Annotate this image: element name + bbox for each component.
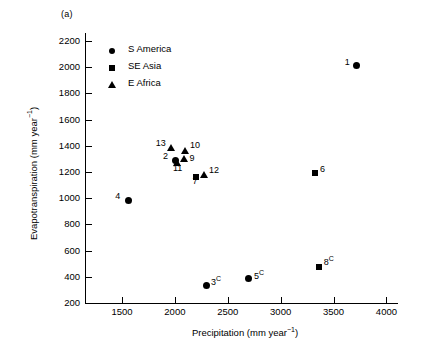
y-tick-label-1000: 1000: [38, 193, 80, 202]
y-tick-label-600: 600: [38, 246, 80, 255]
data-point-label-text: 12: [209, 165, 219, 175]
x-axis-title-main: Precipitation (mm year: [192, 327, 287, 338]
data-point-label-6: 6: [320, 165, 325, 174]
data-point-label-superscript: C: [216, 275, 221, 282]
data-point-label-7: 7: [193, 177, 198, 186]
data-point-1: [353, 62, 360, 69]
y-axis-title-main: Evapotranspiration (mm year: [28, 118, 39, 240]
data-point-label-text: 6: [320, 164, 325, 174]
data-point-label-4: 4: [115, 192, 120, 201]
data-point-4: [125, 197, 132, 204]
panel-label: (a): [61, 9, 73, 19]
y-tick-1400: [86, 146, 92, 147]
y-tick-label-1200: 1200: [38, 167, 80, 176]
y-tick-label-2000: 2000: [38, 62, 80, 71]
data-point-label-text: 11: [173, 163, 182, 173]
y-tick-2200: [86, 41, 92, 42]
filled-triangle-icon-glyph: [108, 81, 116, 88]
data-point-3: [203, 282, 210, 289]
data-point-label-superscript: C: [259, 269, 264, 276]
data-point-label-text: 10: [190, 140, 200, 150]
x-tick-label-2000: 2000: [150, 306, 200, 317]
filled-square-icon-glyph: [109, 65, 115, 71]
y-tick-1600: [86, 120, 92, 121]
x-axis-line: [85, 303, 398, 304]
y-tick-label-200: 200: [38, 298, 80, 307]
data-point-9: [180, 155, 188, 162]
x-axis-title-tail: ): [295, 327, 298, 338]
data-point-12: [200, 171, 208, 178]
data-point-5: [245, 275, 252, 282]
data-point-13: [167, 144, 175, 151]
filled-circle-icon-glyph: [109, 48, 115, 54]
data-point-8: [316, 264, 322, 270]
scatter-plot-figure: (a) 200400600800100012001400160018002000…: [0, 0, 422, 361]
y-tick-200: [86, 303, 92, 304]
legend-label: E Africa: [128, 77, 161, 88]
data-point-label-10: 10: [190, 141, 200, 150]
data-point-label-9: 9: [189, 154, 194, 163]
x-axis-title: Precipitation (mm year−1): [120, 327, 370, 338]
y-tick-400: [86, 277, 92, 278]
x-tick-3000: [281, 297, 282, 303]
x-axis-title-superscript: −1: [287, 326, 295, 333]
data-point-label-text: 7: [193, 176, 198, 186]
y-tick-800: [86, 224, 92, 225]
y-tick-label-1400: 1400: [38, 141, 80, 150]
y-tick-600: [86, 251, 92, 252]
x-tick-2000: [175, 297, 176, 303]
y-axis-title: Evapotranspiration (mm year−1): [28, 64, 39, 284]
y-tick-label-400: 400: [38, 272, 80, 281]
data-point-label-text: 9: [189, 153, 194, 163]
x-tick-label-4000: 4000: [361, 306, 411, 317]
x-tick-label-3500: 3500: [309, 306, 359, 317]
y-tick-label-2200: 2200: [38, 36, 80, 45]
data-point-label-5: 5C: [254, 272, 264, 281]
x-tick-2500: [228, 297, 229, 303]
data-point-label-13: 13: [156, 139, 166, 148]
data-point-10: [181, 147, 189, 154]
y-tick-label-1600: 1600: [38, 115, 80, 124]
y-tick-1800: [86, 93, 92, 94]
data-point-label-12: 12: [209, 166, 219, 175]
data-point-label-superscript: C: [329, 255, 334, 262]
data-point-6: [312, 170, 318, 176]
legend-label: SE Asia: [128, 60, 161, 71]
y-axis-title-superscript: −1: [26, 110, 33, 118]
data-point-label-11: 11: [173, 164, 182, 173]
data-point-label-3: 3C: [211, 278, 221, 287]
data-point-label-text: 2: [163, 151, 168, 161]
y-tick-1000: [86, 198, 92, 199]
y-axis-title-tail: ): [28, 107, 39, 110]
data-point-label-text: 13: [156, 138, 166, 148]
legend-label: S America: [128, 43, 171, 54]
y-axis-line: [85, 33, 86, 304]
y-tick-label-1800: 1800: [38, 88, 80, 97]
y-tick-2000: [86, 67, 92, 68]
data-point-label-text: 1: [345, 57, 350, 67]
x-tick-4000: [386, 297, 387, 303]
x-tick-label-1500: 1500: [97, 306, 147, 317]
data-point-label-2: 2: [163, 152, 168, 161]
y-tick-label-800: 800: [38, 219, 80, 228]
x-tick-3500: [334, 297, 335, 303]
filled-circle-icon: [108, 45, 120, 57]
filled-triangle-icon: [108, 79, 120, 91]
data-point-label-8: 8C: [324, 258, 334, 267]
data-point-label-1: 1: [345, 58, 350, 67]
y-tick-1200: [86, 172, 92, 173]
x-tick-label-2500: 2500: [203, 306, 253, 317]
filled-square-icon: [108, 62, 120, 74]
x-tick-label-3000: 3000: [256, 306, 306, 317]
x-tick-1500: [122, 297, 123, 303]
data-point-label-text: 4: [115, 191, 120, 201]
